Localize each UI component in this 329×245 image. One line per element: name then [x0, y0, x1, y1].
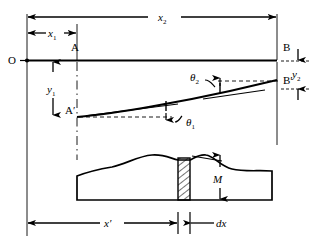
- dimension-x1-label: x1: [47, 27, 57, 42]
- dimension-dx: dx: [191, 217, 227, 229]
- theta2-leader: [205, 80, 215, 87]
- undeflected-beam-axis: A B: [27, 41, 290, 61]
- elastic-curve: [77, 80, 277, 117]
- dimension-x2: x2: [28, 11, 276, 26]
- moment-label: M: [212, 173, 223, 185]
- angle-theta2-label: θ2: [190, 71, 199, 86]
- moment-diagram-outline: [77, 155, 272, 200]
- theta1-leader: [175, 116, 182, 122]
- moment-dimension-leader: [192, 156, 222, 161]
- dimension-y1: y1: [46, 62, 56, 115]
- point-b-label: B: [283, 41, 290, 53]
- dimension-dx-label: dx: [216, 217, 227, 229]
- origin-marker-group: O: [8, 54, 29, 66]
- bending-moment-diagram: M: [77, 155, 272, 200]
- angle-theta2-group: θ2: [190, 71, 280, 99]
- extension-lines: [27, 14, 311, 236]
- beam-deflection-figure: x2 x1 O A B y1 y2: [0, 0, 329, 245]
- angle-theta1-label: θ1: [186, 116, 195, 131]
- dimension-y1-label: y1: [46, 83, 56, 98]
- dimension-x2-label: x2: [157, 11, 167, 26]
- dimension-x-prime: x′: [28, 212, 190, 234]
- dimension-x-prime-label: x′: [103, 217, 112, 229]
- point-b-prime-label: B′: [283, 74, 293, 86]
- moment-strip-hatched: [178, 158, 190, 200]
- figure-canvas: x2 x1 O A B y1 y2: [0, 0, 329, 245]
- theta1-tangent-line: [88, 104, 178, 116]
- elastic-curve-group: A′ B′: [65, 74, 293, 117]
- origin-label: O: [8, 54, 16, 66]
- point-a-prime-label: A′: [65, 104, 75, 116]
- dimension-x1: x1: [28, 27, 76, 42]
- point-a-label: A: [71, 41, 79, 53]
